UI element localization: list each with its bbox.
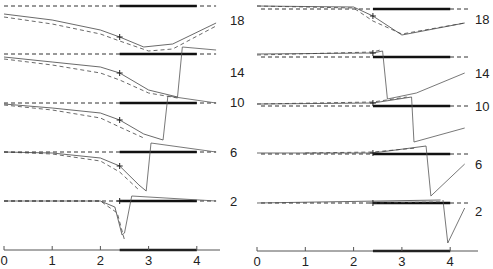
dashed-curve-right-6 (305, 148, 416, 153)
figure: 01234181410620123418141062 (0, 0, 493, 269)
trace-label-left-6: 6 (230, 145, 237, 160)
jump-curve-left-6 (146, 143, 216, 191)
dashed-curve-left-18 (4, 17, 216, 51)
trace-label-right-14: 14 (475, 66, 489, 81)
solid-curve-right-10 (257, 97, 412, 104)
x-tick-label-right: 1 (302, 254, 309, 269)
trace-label-right-10: 10 (475, 99, 489, 114)
solid-curve-left-6 (4, 152, 146, 191)
jump-curve-right-2 (443, 200, 465, 243)
x-tick-label-right: 4 (447, 254, 454, 269)
solid-curve-left-18 (4, 14, 216, 47)
x-tick-label-left: 1 (49, 253, 56, 268)
trace-label-right-18: 18 (475, 12, 489, 27)
trace-label-left-2: 2 (230, 194, 237, 209)
trace-label-right-6: 6 (475, 157, 482, 172)
trace-label-left-18: 18 (230, 13, 244, 28)
solid-curve-right-18 (257, 6, 465, 35)
solid-curve-left-2 (4, 201, 125, 235)
solid-curve-left-14 (4, 57, 178, 97)
x-tick-label-left: 0 (0, 253, 7, 268)
trace-label-left-10: 10 (230, 95, 244, 110)
trace-label-left-14: 14 (230, 65, 244, 80)
solid-curve-left-10 (4, 104, 163, 140)
solid-curve-right-6 (257, 146, 426, 153)
jump-curve-right-10 (412, 97, 465, 142)
x-tick-label-left: 2 (97, 253, 104, 268)
dashed-curve-left-6 (4, 152, 139, 190)
x-tick-label-right: 0 (253, 254, 260, 269)
x-tick-label-right: 3 (398, 254, 405, 269)
dashed-curve-left-14 (4, 59, 178, 98)
chart-svg: 01234181410620123418141062 (0, 0, 493, 269)
dashed-curve-left-2 (4, 201, 125, 240)
x-tick-label-left: 3 (145, 253, 152, 268)
dashed-curve-right-14 (257, 50, 380, 55)
trace-label-right-2: 2 (475, 204, 482, 219)
x-tick-label-left: 4 (193, 253, 200, 268)
x-tick-label-right: 2 (350, 254, 357, 269)
dashed-curve-right-10 (257, 97, 407, 104)
